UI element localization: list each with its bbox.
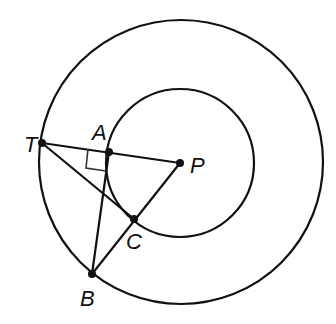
- label-T: T: [24, 132, 39, 157]
- geometry-diagram: T A P C B: [0, 0, 336, 324]
- label-B: B: [80, 286, 95, 311]
- label-A: A: [90, 120, 107, 145]
- point-C: [130, 215, 138, 223]
- point-P: [176, 159, 184, 167]
- point-B: [88, 270, 96, 278]
- label-C: C: [126, 229, 142, 254]
- point-T: [38, 139, 46, 147]
- label-P: P: [190, 153, 205, 178]
- point-A: [105, 148, 113, 156]
